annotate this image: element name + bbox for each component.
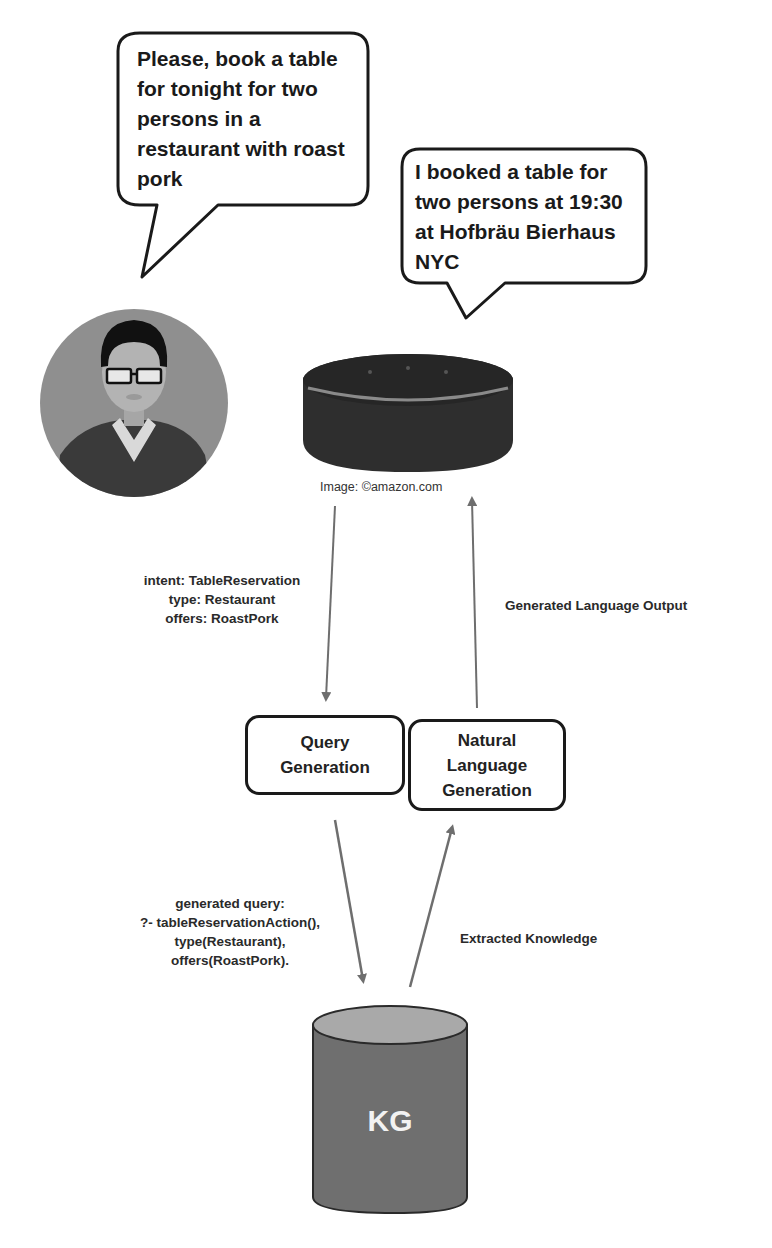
output-arrow [472,500,477,708]
intent-arrow [326,506,335,698]
query-line: generated query: [110,894,350,913]
nlg-node: Natural Language Generation [408,719,566,811]
node-label: Generation [442,778,532,803]
user-request-line: Please, book a table [137,44,345,74]
assistant-response-line: I booked a table for [415,157,623,187]
node-label: Natural [442,728,532,753]
assistant-response-line: two persons at 19:30 [415,187,623,217]
intent-type-line: type: Restaurant [118,590,326,609]
user-request-line: persons in a [137,104,345,134]
intent-label: intent: TableReservation type: Restauran… [118,571,326,628]
diagram-canvas [0,0,772,1248]
user-request-line: for tonight for two [137,74,345,104]
node-label: Language [442,753,532,778]
user-request-line: pork [137,164,345,194]
generated-query-label: generated query: ?- tableReservationActi… [110,894,350,970]
image-credit-caption: Image: ©amazon.com [320,480,442,494]
query-line: ?- tableReservationAction(), [110,913,350,932]
user-request-line: restaurant with roast [137,134,345,164]
smart-speaker-icon [303,354,513,472]
knowledge-arrow [410,828,452,987]
node-label: Query [280,730,370,755]
extracted-knowledge-label: Extracted Knowledge [460,929,597,948]
assistant-response-line: NYC [415,247,623,277]
intent-line: intent: TableReservation [118,571,326,590]
user-request-text: Please, book a table for tonight for two… [137,44,345,194]
node-label: Generation [280,755,370,780]
query-generation-node: Query Generation [245,715,405,795]
kg-label: KG [313,1104,467,1138]
query-line: type(Restaurant), [110,932,350,951]
query-line: offers(RoastPork). [110,951,350,970]
assistant-response-line: at Hofbräu Bierhaus [415,217,623,247]
intent-offers-line: offers: RoastPork [118,609,326,628]
generated-output-label: Generated Language Output [505,596,687,615]
user-avatar-icon [40,309,228,510]
assistant-response-text: I booked a table for two persons at 19:3… [415,157,623,277]
